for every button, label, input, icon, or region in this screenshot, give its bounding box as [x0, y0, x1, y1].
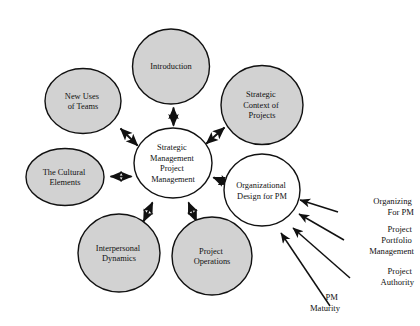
- node-center-strategic-management-project-management: Strategic Management Project Management: [134, 128, 212, 198]
- connector-center-to-new-uses-of-teams: [121, 129, 138, 146]
- diagram-canvas: Introduction Strategic Context of Projec…: [0, 0, 420, 326]
- label-project-authority: Project Authority: [381, 266, 415, 287]
- node-project-operations: Project Operations: [172, 217, 252, 295]
- node-organizational-design-for-pm-label: Organizational Design for PM: [236, 181, 288, 201]
- node-new-uses-of-teams: New Uses of Teams: [45, 69, 121, 134]
- input-label-group: Organizing For PM Project Portfolio Mana…: [310, 196, 415, 313]
- node-strategic-context-of-projects-label: Strategic Context of Projects: [243, 90, 281, 120]
- label-organizing-for-pm: Organizing For PM: [373, 196, 414, 217]
- node-introduction: Introduction: [133, 29, 210, 104]
- arrow-project-authority: [293, 228, 350, 278]
- arrow-pm-maturity: [281, 233, 330, 306]
- label-pm-maturity: PM Maturity: [310, 292, 341, 313]
- connector-center-to-strategic-context: [207, 128, 225, 144]
- connector-center-to-project-operations: [189, 203, 197, 222]
- node-interpersonal-dynamics-label: Interpersonal Dynamics: [96, 243, 142, 263]
- node-introduction-label: Introduction: [150, 62, 192, 71]
- connector-center-to-interpersonal-dynamics: [144, 203, 153, 222]
- node-organizational-design-for-pm: Organizational Design for PM: [224, 154, 300, 226]
- node-project-operations-label: Project Operations: [194, 246, 231, 266]
- node-new-uses-of-teams-label: New Uses of Teams: [65, 91, 101, 111]
- node-the-cultural-elements: The Cultural Elements: [26, 149, 104, 206]
- label-project-portfolio-management: Project Portfolio Management: [369, 224, 414, 256]
- node-interpersonal-dynamics: Interpersonal Dynamics: [78, 214, 160, 292]
- concept-diagram: Introduction Strategic Context of Projec…: [0, 0, 420, 326]
- node-strategic-context-of-projects: Strategic Context of Projects: [221, 66, 303, 145]
- arrow-organizing-for-pm: [300, 200, 338, 212]
- node-organizational-design-for-pm-circle: [224, 154, 300, 226]
- input-arrow-group: [281, 200, 350, 306]
- arrow-project-portfolio-management: [299, 214, 344, 240]
